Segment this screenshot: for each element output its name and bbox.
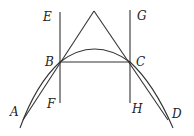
- label-e: E: [42, 10, 52, 24]
- label-b: B: [44, 55, 54, 69]
- label-c: C: [136, 55, 145, 69]
- label-a: A: [9, 105, 19, 119]
- label-g: G: [137, 9, 147, 23]
- label-f: F: [46, 97, 56, 111]
- geometry-diagram: E G B C F H A D: [0, 0, 194, 136]
- line-apex-c: [94, 11, 168, 120]
- label-h: H: [131, 102, 143, 116]
- line-apex-b: [23, 11, 94, 120]
- label-d: D: [171, 107, 182, 121]
